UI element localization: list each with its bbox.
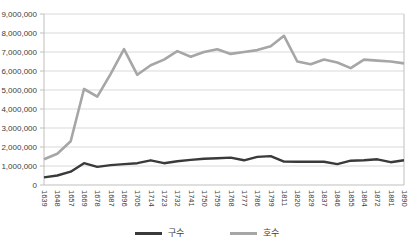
legend-item-hosu: 호수 [230, 229, 279, 238]
x-tick-label: 1820 [293, 190, 302, 207]
x-tick-label: 1648 [53, 190, 62, 207]
x-tick-label: 1799 [267, 190, 276, 207]
x-tick-label: 1864 [360, 190, 369, 207]
x-tick-label: 1678 [93, 190, 102, 207]
x-tick-label: 1705 [133, 190, 142, 207]
series-line-구수 [44, 156, 404, 177]
y-tick-label: 1,000,000 [1, 162, 37, 171]
y-tick-label: 9,000,000 [1, 10, 37, 19]
x-tick-label: 1669 [80, 190, 89, 207]
x-tick-label: 1890 [400, 190, 409, 207]
hosu-line-swatch [230, 232, 257, 235]
y-tick-label: 4,000,000 [1, 105, 37, 114]
x-tick-label: 1714 [147, 190, 156, 207]
hosu-legend-label: 호수 [263, 229, 279, 238]
x-tick-label: 1837 [320, 190, 329, 207]
y-tick-label: 5,000,000 [1, 86, 37, 95]
y-tick-label: 2,000,000 [1, 143, 37, 152]
y-tick-label: 6,000,000 [1, 67, 37, 76]
population-household-chart: 01,000,0002,000,0003,000,0004,000,0005,0… [0, 0, 414, 246]
x-tick-label: 1846 [333, 190, 342, 207]
y-tick-label: 7,000,000 [1, 48, 37, 57]
plot-svg: 01,000,0002,000,0003,000,0004,000,0005,0… [0, 0, 414, 246]
legend-item-gusu: 구수 [135, 229, 184, 238]
y-tick-label: 3,000,000 [1, 124, 37, 133]
x-tick-label: 1723 [160, 190, 169, 207]
y-tick-label: 0 [33, 181, 38, 190]
x-tick-label: 1750 [200, 190, 209, 207]
x-tick-label: 1696 [120, 190, 129, 207]
x-tick-label: 1759 [213, 190, 222, 207]
x-tick-label: 1881 [387, 190, 396, 207]
y-tick-label: 8,000,000 [1, 29, 37, 38]
x-tick-label: 1687 [107, 190, 116, 207]
x-tick-label: 1829 [307, 190, 316, 207]
gusu-legend-label: 구수 [168, 229, 184, 238]
x-tick-label: 1639 [40, 190, 49, 207]
x-tick-label: 1811 [280, 190, 289, 206]
chart-legend: 구수 호수 [0, 229, 414, 238]
x-tick-label: 1855 [347, 190, 356, 207]
series-line-호수 [44, 36, 404, 160]
x-tick-label: 1872 [373, 190, 382, 207]
x-tick-label: 1732 [173, 190, 182, 207]
gusu-line-swatch [135, 232, 162, 235]
x-tick-label: 1741 [187, 190, 196, 207]
x-tick-label: 1768 [227, 190, 236, 207]
x-tick-label: 1657 [67, 190, 76, 207]
x-tick-label: 1786 [253, 190, 262, 207]
x-tick-label: 1777 [240, 190, 249, 207]
